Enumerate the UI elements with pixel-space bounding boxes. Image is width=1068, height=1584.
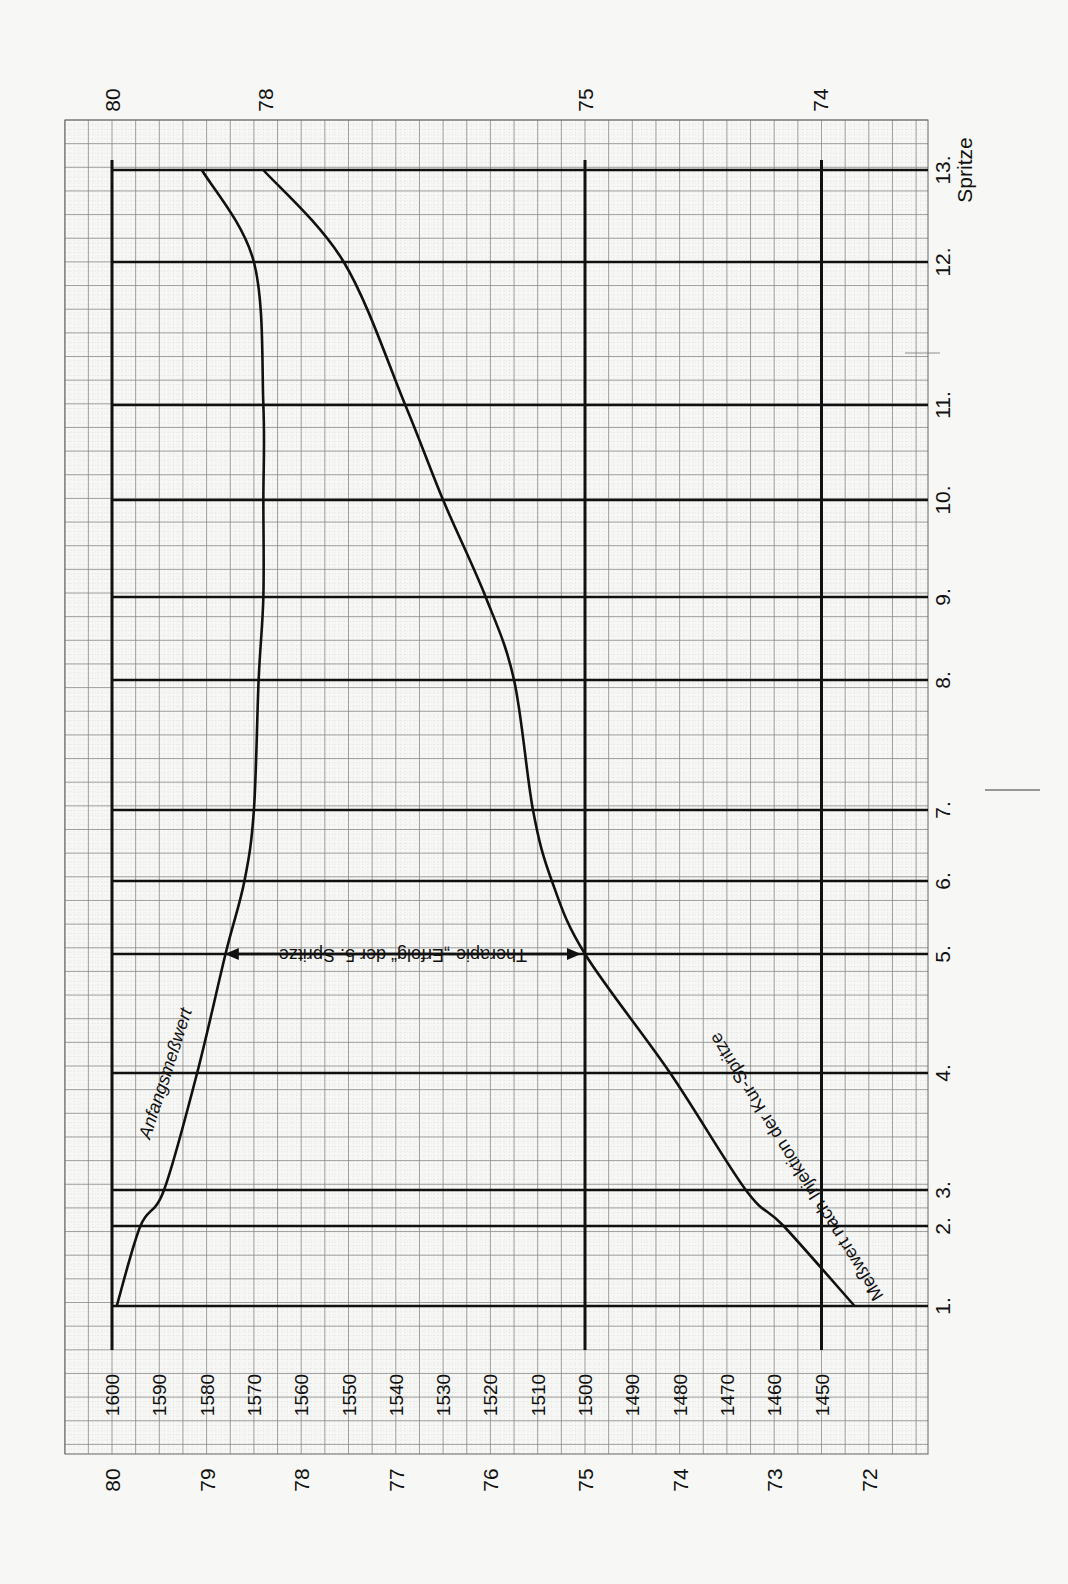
- tick-label-primary: 1470: [717, 1374, 738, 1416]
- annotation-therapy-effect: Therapie-„Erfolg“ der 5. Spritze: [279, 945, 527, 965]
- tick-label-primary: 1510: [528, 1374, 549, 1416]
- tick-label-injection: 9.: [931, 588, 954, 606]
- paper-background: [0, 0, 1068, 1584]
- tick-label-injection: 1.: [931, 1297, 954, 1315]
- tick-label-primary: 1550: [339, 1374, 360, 1416]
- tick-label-primary: 1480: [670, 1374, 691, 1416]
- tick-label-injection: 7.: [931, 801, 954, 819]
- tick-label-primary: 1520: [480, 1374, 501, 1416]
- tick-label-primary: 1580: [197, 1374, 218, 1416]
- tick-label-primary: 1600: [102, 1374, 123, 1416]
- tick-label-injection: 6.: [931, 872, 954, 890]
- tick-label-top: 78: [254, 88, 277, 111]
- tick-label-injection: 3.: [931, 1181, 954, 1199]
- tick-label-bottom: 79: [196, 1468, 219, 1491]
- tick-label-bottom: 75: [574, 1468, 597, 1491]
- tick-label-bottom: 78: [290, 1468, 313, 1491]
- tick-label-bottom: 73: [763, 1468, 786, 1491]
- tick-label-injection: 8.: [931, 671, 954, 689]
- tick-label-primary: 1490: [622, 1374, 643, 1416]
- tick-label-bottom: 74: [669, 1468, 692, 1492]
- tick-label-primary: 1460: [764, 1374, 785, 1416]
- chart-canvas: Therapie-„Erfolg“ der 5. SpritzeAnfangsm…: [0, 0, 1068, 1584]
- tick-label-primary: 1560: [291, 1374, 312, 1416]
- tick-label-injection: 11.: [931, 391, 954, 419]
- tick-label-primary: 1530: [433, 1374, 454, 1416]
- tick-label-top: 74: [809, 88, 832, 112]
- tick-label-primary: 1500: [575, 1374, 596, 1416]
- tick-label-primary: 1570: [244, 1374, 265, 1416]
- tick-label-top: 80: [101, 88, 124, 111]
- tick-label-injection: 4.: [931, 1064, 954, 1082]
- tick-label-bottom: 72: [858, 1468, 881, 1491]
- tick-label-injection: 5.: [931, 945, 954, 963]
- axis-title-spritze: Spritze: [953, 137, 976, 202]
- tick-label-injection: 12.: [931, 247, 954, 276]
- tick-label-primary: 1590: [149, 1374, 170, 1416]
- tick-label-top: 75: [574, 88, 597, 111]
- tick-label-bottom: 77: [385, 1468, 408, 1491]
- tick-label-injection: 10.: [931, 485, 954, 514]
- tick-label-bottom: 76: [479, 1468, 502, 1491]
- tick-label-primary: 1450: [812, 1374, 833, 1416]
- tick-label-primary: 1540: [386, 1374, 407, 1416]
- tick-label-injection: 13.: [931, 155, 954, 184]
- tick-label-injection: 2.: [931, 1217, 954, 1235]
- tick-label-bottom: 80: [101, 1468, 124, 1491]
